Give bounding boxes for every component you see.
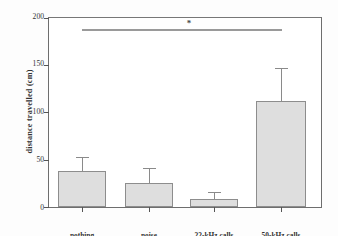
y-tick-0: [44, 207, 49, 208]
x-tick-noise: [149, 207, 150, 212]
bar-50khz-calls[interactable]: [256, 101, 306, 208]
error-stem-50khz-calls: [281, 69, 282, 100]
y-tick-label-0: 0: [4, 204, 44, 212]
y-tick-label-100: 100: [4, 108, 44, 116]
plot-inner: *: [49, 18, 321, 207]
plot-area: * nothing noise 22-kHz calls 50-kHz call…: [48, 17, 322, 208]
x-tick-22khz-calls: [214, 207, 215, 212]
y-tick-label-200: 200: [4, 13, 44, 21]
y-tick-50: [44, 160, 49, 161]
x-tick-nothing: [82, 207, 83, 212]
error-cap-22khz-calls: [208, 192, 221, 193]
error-stem-22khz-calls: [214, 193, 215, 200]
error-cap-nothing: [76, 157, 89, 158]
x-tick-label-50khz-calls: 50-kHz calls: [241, 231, 321, 236]
y-tick-150: [44, 65, 49, 66]
bar-nothing[interactable]: [58, 171, 106, 207]
y-tick-100: [44, 112, 49, 113]
error-stem-nothing: [82, 158, 83, 171]
error-cap-noise: [143, 168, 156, 169]
significance-asterisk: *: [187, 19, 192, 28]
x-tick-50khz-calls: [281, 207, 282, 212]
bar-chart-figure: distance travelled (cm) 0 50 100 150 200…: [0, 0, 338, 236]
y-tick-label-50: 50: [4, 156, 44, 164]
y-tick-label-150: 150: [4, 60, 44, 68]
y-tick-200: [44, 18, 49, 19]
error-stem-noise: [149, 169, 150, 183]
significance-line: [82, 29, 282, 31]
error-cap-50khz-calls: [275, 68, 288, 69]
bar-22khz-calls[interactable]: [190, 199, 238, 207]
bar-noise[interactable]: [125, 183, 173, 207]
